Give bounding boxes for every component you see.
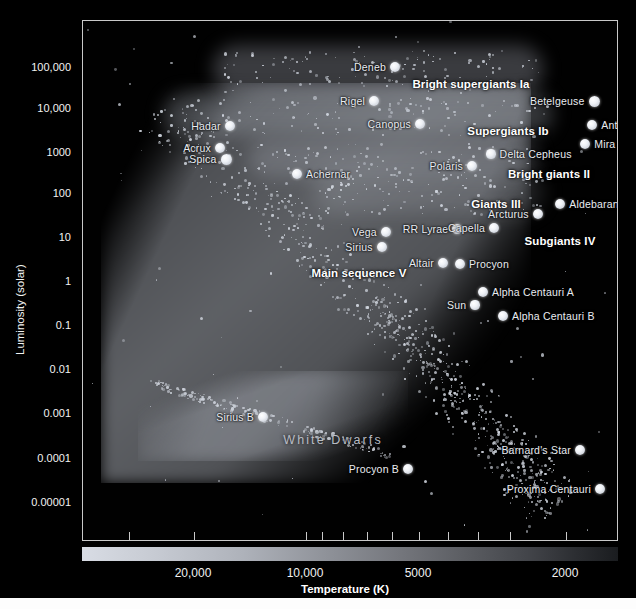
background-star bbox=[474, 394, 476, 396]
background-star bbox=[492, 442, 495, 445]
background-star bbox=[378, 306, 381, 309]
background-star bbox=[390, 174, 392, 176]
background-star bbox=[160, 122, 161, 123]
background-star bbox=[120, 173, 122, 175]
background-star bbox=[304, 157, 307, 160]
background-star bbox=[402, 84, 403, 85]
background-star bbox=[194, 393, 196, 395]
background-star bbox=[486, 395, 488, 397]
background-star bbox=[496, 439, 499, 442]
background-star bbox=[305, 224, 307, 226]
background-star bbox=[270, 272, 272, 274]
background-star bbox=[203, 402, 204, 403]
background-star bbox=[242, 407, 245, 410]
background-star bbox=[492, 451, 495, 454]
background-star bbox=[465, 360, 468, 363]
star-marker bbox=[486, 149, 495, 158]
background-star bbox=[408, 326, 411, 329]
background-star bbox=[456, 393, 458, 395]
background-star bbox=[399, 191, 400, 192]
background-star bbox=[297, 227, 299, 229]
background-star bbox=[391, 321, 393, 323]
background-star bbox=[302, 243, 303, 244]
background-star bbox=[431, 194, 433, 196]
star-marker bbox=[221, 154, 232, 165]
background-star bbox=[458, 407, 461, 410]
background-star bbox=[225, 134, 228, 137]
background-star bbox=[185, 156, 188, 159]
background-star bbox=[371, 305, 372, 306]
background-star bbox=[478, 433, 480, 435]
background-star bbox=[561, 500, 564, 503]
background-star bbox=[301, 202, 303, 204]
background-star bbox=[247, 187, 249, 189]
background-star bbox=[201, 398, 204, 401]
background-star bbox=[284, 89, 287, 92]
x-axis-tick bbox=[392, 532, 393, 540]
background-star bbox=[431, 326, 434, 329]
background-star bbox=[503, 100, 505, 102]
background-star bbox=[394, 293, 397, 296]
background-star bbox=[184, 162, 187, 165]
background-star bbox=[247, 194, 249, 196]
background-star bbox=[486, 413, 487, 414]
background-star bbox=[266, 421, 268, 423]
background-star bbox=[393, 331, 396, 334]
background-star bbox=[357, 193, 358, 194]
background-star bbox=[260, 144, 263, 147]
background-star bbox=[404, 378, 406, 380]
background-star bbox=[162, 385, 163, 386]
background-star bbox=[402, 68, 404, 70]
background-star bbox=[404, 300, 407, 303]
background-star bbox=[489, 462, 491, 464]
background-star bbox=[195, 134, 198, 137]
background-star bbox=[521, 202, 523, 204]
background-star bbox=[309, 257, 311, 259]
background-star bbox=[368, 313, 370, 315]
page-margin-strip bbox=[0, 598, 636, 609]
star-marker bbox=[467, 161, 477, 171]
background-star bbox=[319, 208, 321, 210]
background-star bbox=[348, 285, 351, 288]
background-star bbox=[478, 147, 481, 150]
background-star bbox=[489, 411, 491, 413]
background-star bbox=[290, 60, 292, 62]
star-marker bbox=[587, 120, 597, 130]
background-star bbox=[265, 185, 268, 188]
background-star bbox=[588, 471, 590, 473]
background-star bbox=[409, 373, 410, 374]
background-star bbox=[277, 208, 280, 211]
background-star bbox=[316, 152, 319, 155]
background-star bbox=[287, 248, 290, 251]
background-star bbox=[446, 373, 448, 375]
background-star bbox=[414, 337, 417, 340]
background-star bbox=[446, 363, 447, 364]
background-star bbox=[388, 193, 391, 196]
background-star bbox=[211, 196, 213, 198]
background-star bbox=[226, 408, 227, 409]
background-star bbox=[451, 386, 453, 388]
background-star bbox=[285, 182, 288, 185]
background-star bbox=[299, 83, 302, 86]
background-star bbox=[523, 472, 526, 475]
background-star bbox=[363, 85, 365, 87]
background-star bbox=[430, 492, 433, 495]
background-star bbox=[383, 304, 386, 307]
background-star bbox=[539, 473, 542, 476]
background-star bbox=[307, 258, 308, 259]
background-star bbox=[513, 431, 515, 433]
background-star bbox=[422, 110, 424, 112]
background-star bbox=[429, 127, 431, 129]
background-star bbox=[487, 445, 488, 446]
background-star bbox=[442, 404, 445, 407]
background-star bbox=[372, 331, 373, 332]
background-star bbox=[489, 448, 492, 451]
background-star bbox=[219, 102, 222, 105]
background-star bbox=[164, 109, 166, 111]
background-star bbox=[316, 248, 317, 249]
background-star bbox=[459, 375, 462, 378]
background-star bbox=[489, 56, 491, 58]
star-label: Antares bbox=[601, 119, 618, 131]
background-star bbox=[382, 452, 383, 453]
background-star bbox=[497, 445, 498, 446]
